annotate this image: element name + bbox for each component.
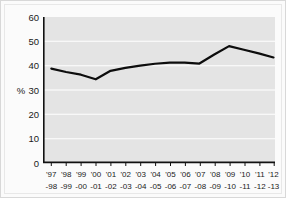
x-tick-bottom-13: -11 (240, 182, 252, 191)
y-axis-label: % (17, 85, 26, 96)
x-tick-bottom-4: -02 (105, 182, 117, 191)
x-tick-bottom-6: -04 (135, 182, 147, 191)
y-tick-30: 30 (28, 85, 39, 96)
y-tick-40: 40 (28, 60, 39, 71)
x-tick-top-14: '11 (255, 170, 265, 179)
x-tick-bottom-0: -98 (46, 182, 58, 191)
x-tick-top-7: '04 (150, 170, 161, 179)
x-tick-bottom-15: -13 (268, 182, 280, 191)
x-tick-bottom-5: -03 (120, 182, 132, 191)
x-tick-top-3: '00 (91, 170, 102, 179)
x-tick-bottom-7: -05 (150, 182, 162, 191)
y-tick-60: 60 (28, 12, 39, 23)
x-tick-top-9: '06 (180, 170, 191, 179)
x-tick-bottom-12: -10 (224, 182, 236, 191)
x-tick-bottom-14: -12 (254, 182, 266, 191)
y-tick-20: 20 (28, 109, 39, 120)
x-tick-bottom-3: -01 (90, 182, 102, 191)
y-tick-0: 0 (34, 158, 39, 169)
x-tick-top-10: '07 (195, 170, 206, 179)
x-tick-bottom-8: -06 (165, 182, 177, 191)
x-axis-labels-top: '97 '98 '99 '00 '01 '02 '03 '04 '05 '06 … (46, 170, 279, 179)
x-tick-top-5: '02 (121, 170, 132, 179)
x-axis-labels-bottom: -98 -99 -00 -01 -02 -03 -04 -05 -06 -07 … (46, 182, 280, 191)
y-axis-ticks: 60 50 40 30 20 10 0 (28, 12, 39, 169)
x-tick-bottom-11: -09 (209, 182, 221, 191)
x-tick-top-2: '99 (76, 170, 87, 179)
x-tick-top-15: '12 (268, 170, 279, 179)
x-tick-bottom-9: -07 (180, 182, 192, 191)
x-tick-top-1: '98 (61, 170, 72, 179)
x-tick-top-0: '97 (46, 170, 57, 179)
x-tick-top-6: '03 (135, 170, 146, 179)
x-tick-top-13: '10 (240, 170, 251, 179)
x-tick-top-4: '01 (106, 170, 117, 179)
x-tick-bottom-10: -08 (195, 182, 207, 191)
x-tick-bottom-1: -99 (60, 182, 72, 191)
chart-figure: 60 50 40 30 20 10 0 % (0, 0, 286, 198)
y-tick-50: 50 (28, 36, 39, 47)
x-tick-top-11: '08 (210, 170, 221, 179)
x-tick-top-12: '09 (225, 170, 236, 179)
x-tick-top-8: '05 (165, 170, 176, 179)
line-chart: 60 50 40 30 20 10 0 % (1, 1, 286, 198)
x-tick-bottom-2: -00 (75, 182, 87, 191)
y-tick-10: 10 (28, 133, 39, 144)
